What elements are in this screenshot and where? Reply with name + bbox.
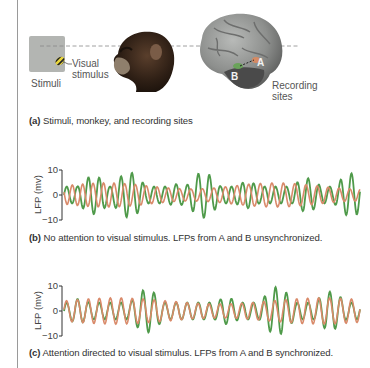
lfp-plot-b: [58, 160, 368, 230]
tick-neg10-b: −10: [36, 214, 58, 225]
tick-10-c: 10: [36, 280, 58, 291]
recording-label-line1: Recording: [272, 80, 318, 91]
visual-stimulus-label: Visual stimulus: [72, 58, 109, 80]
caption-c-letter: (c): [29, 347, 40, 358]
trace-site-a: [64, 298, 360, 324]
caption-b-text: No attention to visual stimulus. LFPs fr…: [41, 232, 322, 243]
lfp-plot-c: [58, 276, 368, 346]
pointer-line: [62, 60, 72, 66]
monkey-head-illustration: [108, 26, 178, 96]
recording-sites-label: Recording sites: [272, 80, 318, 102]
visual-label-line2: stimulus: [72, 69, 109, 80]
caption-b-letter: (b): [29, 232, 41, 243]
y-axis-line: [59, 170, 62, 220]
stimuli-label: Stimuli: [31, 78, 61, 89]
tick-10-b: 10: [36, 164, 58, 175]
caption-c-text: Attention directed to visual stimulus. L…: [40, 347, 333, 358]
recording-label-line2: sites: [272, 91, 318, 102]
site-b-label: B: [231, 71, 238, 82]
tick-neg10-c: −10: [36, 330, 58, 341]
tick-0-c: 0: [36, 305, 58, 316]
tick-0-b: 0: [36, 189, 58, 200]
caption-a-letter: (a): [29, 115, 40, 126]
caption-a: (a) Stimuli, monkey, and recording sites: [29, 115, 193, 126]
site-a-label: A: [257, 57, 264, 68]
visual-label-line1: Visual: [72, 58, 109, 69]
caption-a-text: Stimuli, monkey, and recording sites: [40, 115, 192, 126]
page-margin-rule: [17, 0, 18, 368]
trace-site-b: [64, 173, 360, 218]
caption-c: (c) Attention directed to visual stimulu…: [29, 347, 333, 358]
y-axis-line: [59, 286, 62, 336]
caption-b: (b) No attention to visual stimulus. LFP…: [29, 232, 322, 243]
